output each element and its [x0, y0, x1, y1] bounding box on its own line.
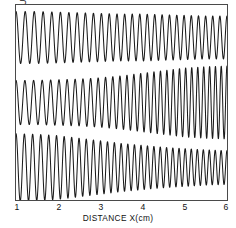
x-tick-label-6: 6	[215, 202, 236, 213]
x-axis-label: DISTANCE X(cm)	[0, 213, 236, 223]
x-tick-label-4: 4	[132, 202, 154, 213]
trace-top	[16, 12, 227, 64]
x-tick-label-3: 3	[90, 202, 112, 213]
plot-traces	[16, 5, 227, 200]
figure-panel: INTERFEROMETER OUTPUT 1 2 3 4 5 6 DISTAN…	[0, 0, 236, 228]
trace-group	[16, 12, 227, 200]
trace-bottom	[16, 134, 227, 200]
trace-middle	[16, 66, 227, 139]
x-tick-label-2: 2	[48, 202, 70, 213]
x-tick-label-1: 1	[6, 202, 28, 213]
x-tick-label-5: 5	[174, 202, 196, 213]
plot-frame	[15, 4, 228, 201]
